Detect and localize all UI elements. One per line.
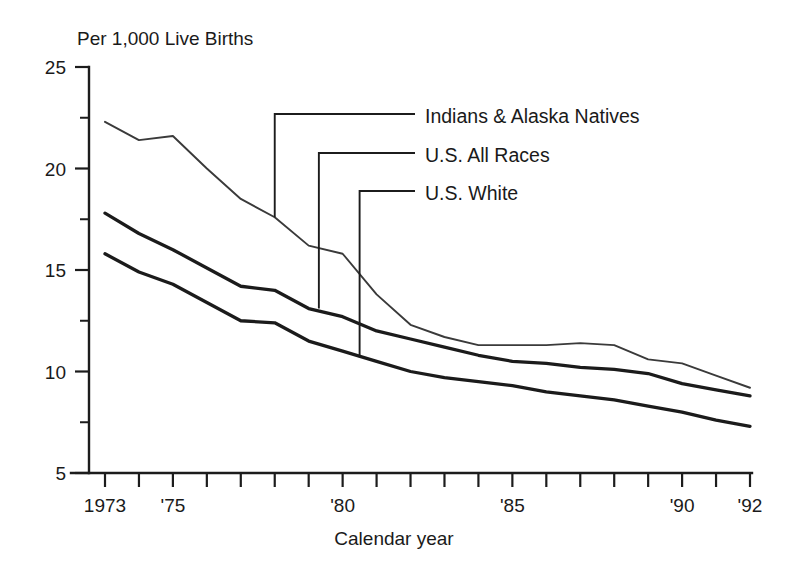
legend-item-us-white: U.S. White	[425, 182, 518, 204]
y-tick-label: 10	[45, 362, 66, 383]
x-tick-label: '85	[500, 495, 525, 516]
chart-figure: Per 1,000 Live Births 252015105 1973'75'…	[0, 0, 789, 581]
y-tick-label: 5	[55, 463, 66, 484]
y-axis-ticks	[75, 67, 89, 473]
x-axis-title: Calendar year	[334, 528, 454, 549]
y-tick-label: 15	[45, 260, 66, 281]
legend: Indians & Alaska Natives U.S. All Races …	[425, 105, 640, 204]
legend-item-indians-alaska-natives: Indians & Alaska Natives	[425, 105, 640, 127]
y-tick-label: 20	[45, 159, 66, 180]
line-chart-svg: Per 1,000 Live Births 252015105 1973'75'…	[0, 0, 789, 581]
x-tick-label: 1973	[84, 495, 126, 516]
legend-item-us-all-races: U.S. All Races	[425, 144, 550, 166]
series-line-u-s-white	[105, 254, 750, 427]
x-axis: 1973'75'80'85'90'92 Calendar year	[71, 473, 762, 549]
x-tick-label: '80	[330, 495, 355, 516]
unit-title: Per 1,000 Live Births	[77, 28, 253, 49]
series-line-u-s-all-races	[105, 213, 750, 396]
x-axis-tick-labels: 1973'75'80'85'90'92	[84, 495, 763, 516]
leader-line-indians-alaska-natives	[275, 114, 415, 217]
y-axis-tick-labels: 252015105	[45, 57, 66, 484]
data-series-group	[105, 122, 750, 427]
x-tick-label: '90	[670, 495, 695, 516]
y-tick-label: 25	[45, 57, 66, 78]
x-tick-label: '75	[161, 495, 186, 516]
unit-title-text: Per 1,000 Live Births	[77, 28, 253, 49]
x-axis-ticks	[105, 473, 750, 487]
leader-line-u-s-all-races	[319, 153, 415, 309]
x-tick-label: '92	[738, 495, 763, 516]
y-axis: 252015105	[45, 57, 89, 484]
